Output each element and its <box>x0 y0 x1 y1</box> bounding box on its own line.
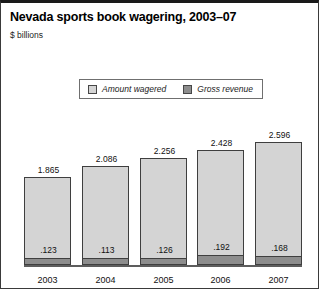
bar-value-label-amount-wagered: 2.428 <box>198 138 245 151</box>
bar-value-label-amount-wagered: 2.086 <box>83 154 130 167</box>
bar-value-label-gross-revenue: .123 <box>25 245 72 255</box>
x-axis-line <box>24 265 302 267</box>
x-tick-label-2005: 2005 <box>140 275 187 286</box>
bar-value-label-gross-revenue: .126 <box>141 245 188 255</box>
bar-amount-wagered: 2.428.192 <box>197 150 244 265</box>
dark-gray-swatch-icon <box>183 85 192 94</box>
bar-gross-revenue <box>256 256 301 264</box>
bar-amount-wagered: 2.086.113 <box>82 166 129 265</box>
bar-value-label-amount-wagered: 2.596 <box>256 130 303 143</box>
plot-area: 1.865.1232.086.1132.256.1262.428.1922.59… <box>24 115 302 267</box>
bar-gross-revenue <box>25 258 70 264</box>
bar-value-label-amount-wagered: 2.256 <box>141 146 188 159</box>
legend-label-gross-revenue: Gross revenue <box>197 84 253 94</box>
bar-group: 1.865.123 <box>24 177 71 265</box>
bar-gross-revenue <box>198 255 243 264</box>
bar-group: 2.596.168 <box>255 142 302 265</box>
x-tick-label-2007: 2007 <box>255 275 302 286</box>
legend-label-amount-wagered: Amount wagered <box>102 84 166 94</box>
legend-item-gross-revenue: Gross revenue <box>183 84 253 94</box>
bar-amount-wagered: 2.256.126 <box>140 158 187 265</box>
chart-header: Nevada sports book wagering, 2003–07 $ b… <box>1 3 318 41</box>
legend-item-amount-wagered: Amount wagered <box>88 84 166 94</box>
x-tick-label-2003: 2003 <box>24 275 71 286</box>
chart-units-label: $ billions <box>10 30 318 41</box>
bar-value-label-gross-revenue: .192 <box>198 242 245 252</box>
bar-value-label-gross-revenue: .168 <box>256 243 303 253</box>
x-tick-label-2004: 2004 <box>82 275 129 286</box>
bar-gross-revenue <box>141 258 186 264</box>
bar-group: 2.428.192 <box>197 150 244 265</box>
chart-figure: Nevada sports book wagering, 2003–07 $ b… <box>0 0 319 289</box>
bar-group: 2.256.126 <box>140 158 187 265</box>
light-gray-swatch-icon <box>88 85 97 94</box>
x-axis-tick-labels: 20032004200520062007 <box>24 269 302 289</box>
bar-value-label-amount-wagered: 1.865 <box>25 165 72 178</box>
x-tick-label-2006: 2006 <box>197 275 244 286</box>
chart-title: Nevada sports book wagering, 2003–07 <box>10 10 318 24</box>
bar-amount-wagered: 1.865.123 <box>24 177 71 265</box>
bar-group: 2.086.113 <box>82 166 129 265</box>
bar-gross-revenue <box>83 258 128 264</box>
chart-legend: Amount wagered Gross revenue <box>79 79 263 99</box>
bar-amount-wagered: 2.596.168 <box>255 142 302 265</box>
bar-value-label-gross-revenue: .113 <box>83 245 130 255</box>
